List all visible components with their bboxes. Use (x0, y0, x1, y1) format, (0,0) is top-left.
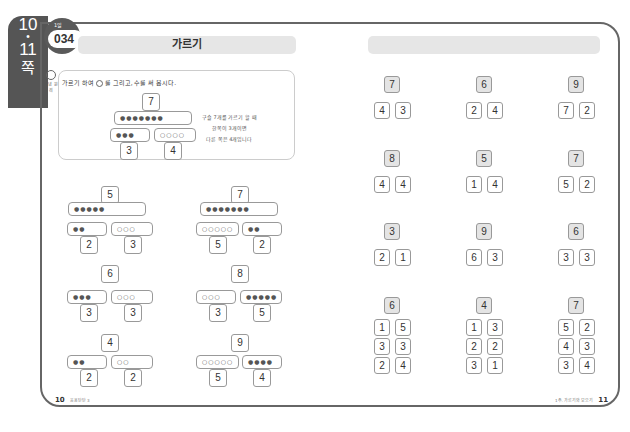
circle-icon (96, 80, 103, 87)
r-problem-11-a-left[interactable]: 1 (466, 319, 482, 336)
left-footer-text: 응용탄탄 3 (70, 398, 90, 403)
r-problem-4-right: 4 (395, 176, 411, 193)
problem-1-left-bar: ●● (67, 222, 107, 236)
r-problem-6-left[interactable]: 5 (558, 176, 574, 193)
problem-6-right-answer[interactable]: 4 (253, 369, 271, 387)
right-page-number: 11 (598, 396, 608, 404)
problem-4-right-answer[interactable]: 5 (253, 304, 271, 322)
example-whole-bar: ●●●●●●● (114, 111, 192, 125)
r-problem-1-total: 7 (384, 76, 400, 93)
example-right-number: 4 (164, 142, 182, 160)
note-line-3: 다른 쪽은 4개입니다 (202, 134, 257, 145)
problem-3-left-answer[interactable]: 3 (80, 304, 98, 322)
r-problem-5-left: 1 (466, 176, 482, 193)
instruction: 가르기 하여 를 그리고, 수를 써 봅시다. (62, 78, 176, 87)
r-problem-11-c-left[interactable]: 3 (466, 357, 482, 374)
r-problem-3-total: 9 (568, 76, 584, 93)
left-footer: 10응용탄탄 3 (55, 396, 90, 404)
r-problem-5-total: 5 (476, 150, 492, 167)
problem-1-right-answer[interactable]: 3 (124, 236, 142, 254)
r-problem-2-right: 4 (487, 102, 503, 119)
problem-4-left-bar[interactable]: ○○○ (196, 290, 236, 304)
r-problem-11-total: 4 (476, 297, 492, 314)
problem-5-right-bar[interactable]: ○○ (111, 355, 153, 369)
r-problem-11-a-right: 3 (487, 319, 503, 336)
r-problem-12-total: 7 (568, 297, 584, 314)
concept-icon: 개념 원리 (44, 70, 58, 92)
r-problem-10-a-left: 1 (374, 319, 390, 336)
problem-3-right-answer[interactable]: 3 (124, 304, 142, 322)
lesson-day: 1일 (54, 21, 62, 28)
right-footer-text: 1주. 가르기와 모으기 (555, 398, 593, 403)
r-problem-9-left: 3 (558, 249, 574, 266)
r-problem-3-left[interactable]: 7 (558, 102, 574, 119)
r-problem-9-right[interactable]: 3 (579, 249, 595, 266)
problem-6-left-answer[interactable]: 5 (209, 369, 227, 387)
problem-4-total: 8 (231, 265, 249, 283)
problem-6-left-bar[interactable]: ○○○○○ (196, 355, 239, 369)
example-left-number: 3 (120, 142, 138, 160)
r-problem-10-b-left: 3 (374, 338, 390, 355)
r-problem-6-total: 7 (568, 150, 584, 167)
problem-2-left-answer[interactable]: 5 (209, 236, 227, 254)
r-problem-8-total: 9 (476, 223, 492, 240)
face-icon (46, 70, 56, 80)
problem-5-total: 4 (101, 334, 119, 352)
problem-3-right-bar[interactable]: ○○○ (111, 290, 153, 304)
r-problem-10-c-left: 2 (374, 357, 390, 374)
problem-5-right-answer[interactable]: 2 (124, 369, 142, 387)
r-problem-7-right[interactable]: 1 (395, 249, 411, 266)
instruction-part-1: 가르기 하여 (62, 79, 94, 86)
r-problem-5-right[interactable]: 4 (487, 176, 503, 193)
r-problem-12-b-right[interactable]: 3 (579, 338, 595, 355)
r-problem-8-right: 3 (487, 249, 503, 266)
r-problem-7-total: 3 (384, 223, 400, 240)
example-total: 7 (142, 93, 160, 111)
example-left-bar: ●●● (110, 128, 150, 142)
r-problem-1-right[interactable]: 3 (395, 102, 411, 119)
r-problem-12-a-right[interactable]: 2 (579, 319, 595, 336)
problem-2-left-bar[interactable]: ○○○○○ (196, 222, 239, 236)
instruction-part-2: 를 그리고, 수를 써 봅시다. (105, 79, 176, 86)
note-line-2: 한쪽이 3개이면 (202, 123, 257, 134)
page-title: 가르기 (78, 36, 296, 54)
problem-4-left-answer[interactable]: 3 (209, 304, 227, 322)
problem-2-right-answer[interactable]: 2 (253, 236, 271, 254)
left-page-number: 10 (55, 396, 65, 404)
r-problem-11-b-right: 2 (487, 338, 503, 355)
r-problem-12-b-left: 4 (558, 338, 574, 355)
example-right-bar: ○○○○ (154, 128, 196, 142)
concept-label: 개념 원리 (44, 81, 58, 93)
example-note: 구슬 7개를 가르기 할 때 한쪽이 3개이면 다른 쪽은 4개입니다 (202, 112, 257, 145)
r-problem-10-c-right[interactable]: 4 (395, 357, 411, 374)
problem-1-right-bar[interactable]: ○○○ (111, 222, 153, 236)
r-problem-3-right: 2 (579, 102, 595, 119)
r-problem-9-total: 6 (568, 223, 584, 240)
problem-5-left-bar: ●● (67, 355, 107, 369)
r-problem-12-c-right[interactable]: 4 (579, 357, 595, 374)
problem-2-right-bar: ●● (242, 222, 282, 236)
r-problem-10-total: 6 (384, 297, 400, 314)
problem-6-total: 9 (231, 334, 249, 352)
r-problem-8-left[interactable]: 6 (466, 249, 482, 266)
r-problem-12-c-left: 3 (558, 357, 574, 374)
problem-2-whole-bar: ●●●●●●● (200, 202, 278, 216)
r-problem-11-b-left[interactable]: 2 (466, 338, 482, 355)
problem-3-total: 6 (101, 265, 119, 283)
r-problem-11-c-right: 1 (487, 357, 503, 374)
r-problem-7-left: 2 (374, 249, 390, 266)
r-problem-12-a-left: 5 (558, 319, 574, 336)
r-problem-10-a-right[interactable]: 5 (395, 319, 411, 336)
problem-1-left-answer[interactable]: 2 (80, 236, 98, 254)
r-problem-6-right: 2 (579, 176, 595, 193)
r-problem-2-left[interactable]: 2 (466, 102, 482, 119)
right-title-bar (368, 36, 600, 54)
r-problem-4-total: 8 (384, 150, 400, 167)
problem-5-left-answer[interactable]: 2 (80, 369, 98, 387)
right-footer: 1주. 가르기와 모으기11 (555, 396, 608, 404)
r-problem-4-left[interactable]: 4 (374, 176, 390, 193)
problem-6-right-bar: ●●●● (242, 355, 282, 369)
problem-4-right-bar: ●●●●● (240, 290, 282, 304)
note-line-1: 구슬 7개를 가르기 할 때 (202, 112, 257, 123)
r-problem-10-b-right[interactable]: 3 (395, 338, 411, 355)
